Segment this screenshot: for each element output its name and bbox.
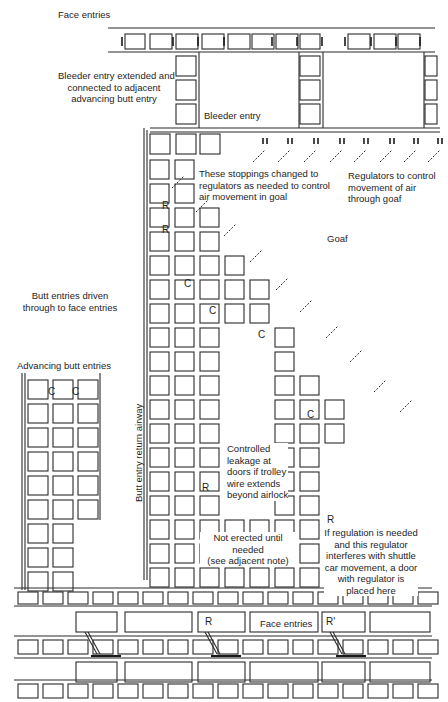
text-line: Butt entries driven <box>20 290 120 302</box>
regulator-marker: R <box>205 617 212 627</box>
regulator-prime-marker: R' <box>326 617 335 627</box>
text-line: Controlled <box>227 443 288 455</box>
mine-ventilation-diagram <box>0 0 448 702</box>
label-goaf: Goaf <box>327 233 348 245</box>
top-face-entries <box>108 28 435 52</box>
text-line: interferes with shuttle <box>324 550 418 562</box>
text-line: Regulators to control <box>348 170 436 182</box>
bottom-face-entries <box>14 588 438 698</box>
crosscut-marker: C <box>209 306 216 316</box>
label-if-regulation: If regulation is needed and this regulat… <box>324 527 418 596</box>
text-line: wire extends <box>227 478 288 490</box>
label-bleeder-extended: Bleeder entry extended and connected to … <box>58 70 170 105</box>
bleeder-entry <box>150 128 440 154</box>
crosscut-marker: C <box>184 279 191 289</box>
text-line: (see adjacent note) <box>200 555 296 567</box>
text-line: through goaf <box>348 193 436 205</box>
text-line: movement of air <box>348 182 436 194</box>
text-line: leakage at <box>227 455 288 467</box>
label-not-erected: Not erected until needed (see adjacent n… <box>200 532 296 567</box>
advancing-butt-entries <box>22 373 100 591</box>
crosscut-marker: C <box>258 330 265 340</box>
crosscut-marker: C <box>48 387 55 397</box>
label-controlled-leakage: Controlled leakage at doors if trolley w… <box>227 443 288 501</box>
text-line: Not erected until <box>200 532 296 544</box>
label-stoppings-changed: These stoppings changed to regulators as… <box>199 168 330 203</box>
text-line: advancing butt entry <box>58 93 170 105</box>
label-face-entries-top: Face entries <box>58 9 110 21</box>
label-regulators-goaf: Regulators to control movement of air th… <box>348 170 436 205</box>
text-line: and this regulator <box>324 539 418 551</box>
crosscut-marker: C <box>72 387 79 397</box>
label-return-airway: Butt entry return airway <box>133 404 145 502</box>
regulator-marker: R <box>162 201 169 211</box>
text-line: through to face entries <box>20 302 120 314</box>
text-line: Bleeder entry extended and <box>58 70 170 82</box>
text-line: regulators as needed to control <box>199 180 330 192</box>
text-line: doors if trolley <box>227 466 288 478</box>
label-bleeder-entry: Bleeder entry <box>204 110 261 122</box>
text-line: These stoppings changed to <box>199 168 330 180</box>
text-line: If regulation is needed <box>324 527 418 539</box>
text-line: placed here <box>324 585 418 597</box>
label-butt-driven: Butt entries driven through to face entr… <box>20 290 120 313</box>
regulator-marker: R <box>327 515 334 525</box>
text-line: connected to adjacent <box>58 82 170 94</box>
label-face-entries-bottom: Face entries <box>258 618 314 630</box>
text-line: car movement, a door <box>324 562 418 574</box>
regulator-marker: R <box>162 225 169 235</box>
label-advancing-butt: Advancing butt entries <box>17 360 111 372</box>
text-line: needed <box>200 544 296 556</box>
crosscut-marker: C <box>307 410 314 420</box>
text-line: air movement in goal <box>199 191 330 203</box>
text-line: beyond airlock <box>227 489 288 501</box>
regulator-marker: R <box>202 483 209 493</box>
text-line: with regulator is <box>324 573 418 585</box>
